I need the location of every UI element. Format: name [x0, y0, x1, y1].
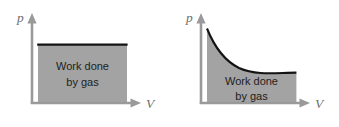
- work-region-area-isobaric: [38, 45, 127, 103]
- pv-diagram-figure: p V Work done by gas p V Work done by ga…: [0, 0, 339, 127]
- work-region-label-line2-isobaric: by gas: [66, 76, 99, 88]
- x-axis-arrow-icon-isothermal: [300, 98, 311, 107]
- x-axis-arrow-icon-isobaric: [131, 98, 142, 107]
- y-axis-label-isobaric: p: [16, 10, 24, 25]
- panel-isothermal: p V Work done by gas: [169, 0, 339, 127]
- y-axis-label-isothermal: p: [185, 10, 193, 25]
- work-region-label-line2-isothermal: by gas: [235, 90, 268, 102]
- panel-isobaric: p V Work done by gas: [0, 0, 170, 127]
- work-region-label-line1-isothermal: Work done: [225, 75, 278, 87]
- x-axis-label-isothermal: V: [315, 96, 325, 111]
- x-axis-label-isobaric: V: [146, 96, 156, 111]
- y-axis-arrow-icon-isothermal: [196, 13, 205, 24]
- work-region-label-line1-isobaric: Work done: [56, 60, 109, 72]
- y-axis-arrow-icon-isobaric: [27, 13, 36, 24]
